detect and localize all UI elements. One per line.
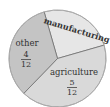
slice-fraction-numerator-agriculture: 5 (69, 78, 74, 87)
slice-label-other: other (15, 38, 39, 48)
pie-chart: manufacturing other 4 12 agriculture 5 1… (0, 0, 110, 107)
slice-label-agriculture: agriculture (50, 67, 98, 77)
slice-fraction-denominator-agriculture: 12 (67, 88, 77, 97)
slice-fraction-denominator-other: 12 (21, 60, 31, 69)
slice-fraction-numerator-other: 4 (23, 50, 28, 59)
